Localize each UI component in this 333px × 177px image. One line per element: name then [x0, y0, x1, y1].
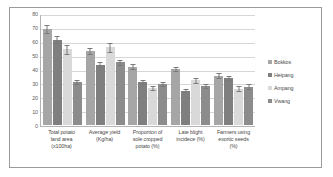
error-bar-cap-top — [183, 89, 188, 90]
bar-bokkos[interactable] — [86, 51, 95, 125]
x-axis-label-line: sole cropped — [127, 136, 168, 143]
bar-slot — [128, 15, 137, 125]
error-bar-cap-bottom — [55, 43, 60, 44]
error-bar-cap-top — [216, 73, 221, 74]
error-bar-cap-bottom — [183, 92, 188, 93]
bar-group — [84, 15, 127, 125]
bar-slot — [224, 15, 233, 125]
error-bar-cap-top — [55, 36, 60, 37]
legend-item-heipang[interactable]: Heipang — [268, 68, 320, 81]
y-axis-tick: 60 — [32, 40, 38, 45]
y-axis-tick: 80 — [32, 12, 38, 17]
y-axis-tick: 40 — [32, 68, 38, 73]
bar-slot — [181, 15, 190, 125]
error-bar-cap-top — [65, 45, 70, 46]
bar-heipang[interactable] — [181, 91, 190, 125]
error-bar-cap-top — [130, 64, 135, 65]
y-axis-tick: 50 — [32, 54, 38, 59]
bar-vwang[interactable] — [244, 87, 253, 126]
error-bar-cap-bottom — [45, 33, 50, 34]
error-bar-cap-top — [108, 43, 113, 44]
bar-ampang[interactable] — [148, 88, 157, 125]
plot-area: 80706050403020100 — [26, 15, 255, 127]
x-axis-label-line: (x100ha) — [41, 143, 82, 150]
legend-label: Heipang — [274, 72, 293, 78]
bar-bokkos[interactable] — [171, 69, 180, 125]
y-axis-tick: 30 — [32, 82, 38, 87]
plot-canvas — [40, 15, 255, 127]
error-bar — [47, 25, 48, 33]
legend-item-vwang[interactable]: Vwang — [268, 94, 320, 107]
legend-swatch-icon — [268, 99, 272, 103]
legend-item-ampang[interactable]: Ampang — [268, 81, 320, 94]
bar-slot — [73, 15, 82, 125]
bar-heipang[interactable] — [224, 78, 233, 125]
bar-ampang[interactable] — [234, 89, 243, 125]
chart-legend: BokkosHeipangAmpangVwang — [268, 55, 320, 107]
error-bar — [57, 36, 58, 43]
bar-ampang[interactable] — [191, 80, 200, 125]
bar-bokkos[interactable] — [43, 29, 52, 125]
error-bar-cap-top — [150, 86, 155, 87]
x-axis-label: Late blightincidece (%) — [169, 129, 212, 151]
bar-ampang[interactable] — [63, 49, 72, 125]
error-bar-cap-top — [45, 25, 50, 26]
bar-group — [127, 15, 170, 125]
x-axis-label-line: potato (%) — [127, 143, 168, 150]
error-bar-cap-bottom — [160, 86, 165, 87]
x-axis-label: Proportion ofsole croppedpotato (%) — [126, 129, 169, 151]
bar-ampang[interactable] — [106, 47, 115, 125]
legend-swatch-icon — [268, 60, 272, 64]
bar-group — [212, 15, 255, 125]
y-axis: 80706050403020100 — [26, 15, 40, 127]
y-axis-tick: 10 — [32, 110, 38, 115]
error-bar-cap-top — [140, 80, 145, 81]
error-bar-cap-bottom — [226, 80, 231, 81]
x-axis-label-line: (%) — [213, 143, 254, 150]
legend-item-bokkos[interactable]: Bokkos — [268, 55, 320, 68]
error-bar-cap-top — [173, 67, 178, 68]
bar-slot — [171, 15, 180, 125]
bar-slot — [96, 15, 105, 125]
bar-bokkos[interactable] — [128, 67, 137, 125]
bar-vwang[interactable] — [73, 82, 82, 125]
x-axis-labels: Total potatoland area(x100ha)Average yie… — [40, 129, 255, 151]
bar-slot — [158, 15, 167, 125]
x-axis-label-line: Farmers using — [213, 129, 254, 136]
bar-heipang[interactable] — [53, 40, 62, 125]
bar-slot — [214, 15, 223, 125]
x-axis-label: Farmers usingexortic seeds(%) — [212, 129, 255, 151]
error-bar-cap-bottom — [98, 67, 103, 68]
y-axis-tick: 70 — [32, 26, 38, 31]
bar-slot — [43, 15, 52, 125]
error-bar-cap-bottom — [75, 84, 80, 85]
bar-bokkos[interactable] — [214, 76, 223, 126]
error-bar-cap-top — [236, 86, 241, 87]
error-bar-cap-top — [226, 76, 231, 77]
bar-group — [169, 15, 212, 125]
bar-slot — [106, 15, 115, 125]
x-axis-label-line: exortic seeds — [213, 136, 254, 143]
bar-heipang[interactable] — [96, 65, 105, 126]
legend-swatch-icon — [268, 73, 272, 77]
error-bar-cap-bottom — [118, 65, 123, 66]
error-bar-cap-top — [118, 60, 123, 61]
x-axis-label: Average yield(Kg/ha) — [83, 129, 126, 151]
x-axis-label-line: Proportion of — [127, 129, 168, 136]
x-axis-label: Total potatoland area(x100ha) — [40, 129, 83, 151]
error-bar-cap-bottom — [236, 91, 241, 92]
bar-vwang[interactable] — [201, 86, 210, 125]
bar-slot — [191, 15, 200, 125]
error-bar-cap-top — [88, 48, 93, 49]
bar-slot — [63, 15, 72, 125]
error-bar — [110, 43, 111, 51]
legend-swatch-icon — [268, 86, 272, 90]
bar-vwang[interactable] — [158, 84, 167, 125]
bar-vwang[interactable] — [116, 62, 125, 125]
bar-heipang[interactable] — [138, 82, 147, 125]
error-bar-cap-bottom — [88, 54, 93, 55]
error-bar-cap-top — [193, 78, 198, 79]
bar-slot — [148, 15, 157, 125]
x-axis-label-line: incidece (%) — [170, 136, 211, 143]
error-bar-cap-bottom — [130, 69, 135, 70]
